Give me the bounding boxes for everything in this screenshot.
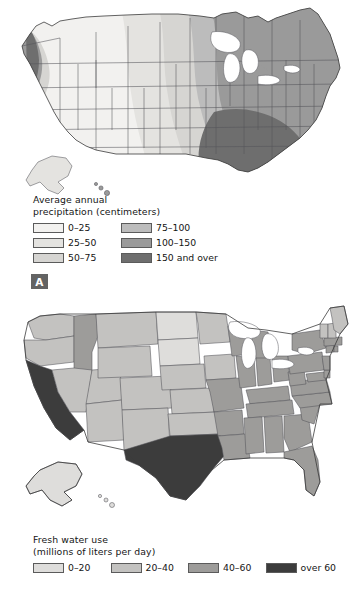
water-use-legend-title: Fresh water use (millions of liters per … [33, 534, 343, 559]
water-use-legend: Fresh water use (millions of liters per … [33, 534, 343, 575]
legend-label: over 60 [301, 562, 337, 574]
legend-item-precip-25-50: 25–50 [33, 237, 121, 250]
lake-michigan [242, 338, 257, 369]
state-vermont [320, 324, 328, 338]
legend-swatch-icon [33, 253, 64, 263]
legend-item-precip-0-25: 0–25 [33, 222, 121, 235]
legend-label: 0–20 [68, 562, 90, 574]
legend-item-precip-75-100: 75–100 [121, 222, 231, 235]
legend-title-line2: (millions of liters per day) [33, 546, 343, 558]
state-arkansas [214, 410, 244, 436]
state-south-dakota [158, 338, 200, 366]
legend-label: 40–60 [223, 562, 251, 574]
state-mississippi [244, 417, 264, 454]
state-oklahoma [168, 412, 220, 436]
state-montana [96, 312, 158, 348]
legend-item-water-40-60: 40–60 [188, 562, 266, 575]
legend-title-line1: Fresh water use [33, 534, 343, 546]
state-rhode-island [334, 346, 338, 352]
state-hawaii [98, 494, 114, 507]
state-wyoming [98, 346, 152, 378]
legend-swatch-icon [121, 253, 152, 263]
two-panel-map-figure: Average annual precipitation (centimeter… [0, 0, 352, 598]
panel-tag-a: A [31, 274, 48, 289]
legend-label: 25–50 [68, 237, 96, 249]
state-alabama [264, 416, 284, 453]
precipitation-map [0, 4, 352, 204]
legend-item-precip-150-over: 150 and over [121, 252, 231, 265]
state-kansas [170, 388, 214, 414]
state-oregon [24, 336, 74, 366]
precipitation-legend-items: 0–25 75–100 25–50 100–150 50–75 [33, 222, 233, 265]
legend-item-precip-50-75: 50–75 [33, 252, 121, 265]
legend-swatch-icon [188, 563, 219, 573]
legend-title-line1: Average annual [33, 194, 233, 206]
precipitation-legend: Average annual precipitation (centimeter… [33, 194, 233, 265]
lake-michigan [224, 54, 241, 83]
legend-label: 20–40 [146, 562, 174, 574]
legend-swatch-icon [111, 563, 142, 573]
water-use-legend-items: 0–20 20–40 40–60 over 60 [33, 562, 343, 575]
legend-swatch-icon [121, 238, 152, 248]
lake-huron [262, 334, 279, 360]
state-indiana [256, 358, 272, 386]
panel-a-precipitation: Average annual precipitation (centimeter… [0, 0, 352, 300]
state-minnesota [196, 312, 230, 344]
legend-item-water-20-40: 20–40 [111, 562, 189, 575]
alaska-a [26, 156, 72, 194]
state-iowa [204, 354, 236, 380]
state-washington [28, 314, 74, 340]
legend-swatch-icon [33, 563, 64, 573]
legend-title-line2: precipitation (centimeters) [33, 206, 233, 218]
state-alaska [26, 462, 82, 506]
legend-item-precip-100-150: 100–150 [121, 237, 231, 250]
legend-label: 75–100 [156, 222, 190, 234]
legend-label: 50–75 [68, 252, 96, 264]
legend-label: 0–25 [68, 222, 90, 234]
state-idaho [74, 314, 98, 372]
state-north-dakota [156, 312, 198, 340]
state-maryland [306, 372, 326, 382]
water-use-map-svg [0, 300, 352, 530]
legend-item-water-over-60: over 60 [266, 562, 344, 575]
legend-label: 150 and over [156, 252, 218, 264]
legend-swatch-icon [266, 563, 297, 573]
legend-item-water-0-20: 0–20 [33, 562, 111, 575]
state-nebraska [160, 364, 206, 390]
legend-swatch-icon [121, 223, 152, 233]
legend-swatch-icon [33, 238, 64, 248]
state-arizona [86, 400, 124, 442]
panel-b-water-use: Fresh water use (millions of liters per … [0, 296, 352, 598]
precipitation-map-svg [0, 4, 352, 204]
water-use-map [0, 300, 352, 530]
precipitation-legend-title: Average annual precipitation (centimeter… [33, 194, 233, 219]
legend-swatch-icon [33, 223, 64, 233]
state-massachusetts [324, 337, 342, 346]
legend-label: 100–150 [156, 237, 196, 249]
